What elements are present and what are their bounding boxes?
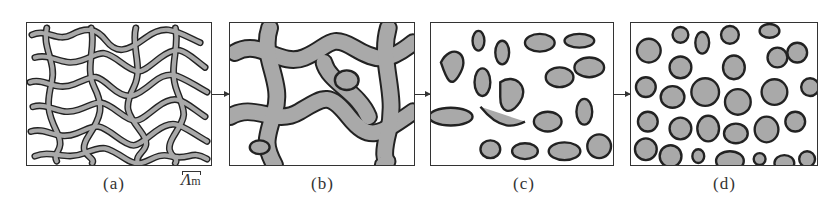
- microstructure-a-image: [27, 23, 211, 165]
- panel-a: [26, 22, 212, 166]
- arrow-b-to-c: [415, 94, 430, 95]
- caption-a: (a): [103, 174, 125, 194]
- caption-b: (b): [311, 174, 334, 194]
- arrow-c-to-d: [614, 94, 630, 95]
- caption-d: (d): [713, 174, 736, 194]
- microstructure-d-image: [631, 23, 817, 165]
- arrow-a-to-b: [212, 94, 229, 95]
- microstructure-b-image: [230, 23, 414, 165]
- scale-bar: [182, 171, 201, 175]
- panel-d: [630, 22, 818, 166]
- panel-c: [430, 22, 614, 166]
- panel-b: [229, 22, 415, 166]
- caption-c: (c): [513, 174, 535, 194]
- scale-subscript: m: [191, 174, 200, 188]
- scale-marker: Λm: [181, 170, 201, 190]
- microstructure-c-image: [431, 23, 613, 165]
